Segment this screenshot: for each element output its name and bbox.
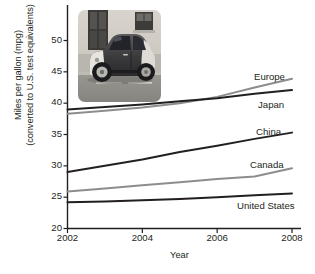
inset-photo: [78, 10, 161, 102]
series-label-japan: Japan: [258, 99, 284, 110]
series-line-canada: [68, 168, 293, 191]
series-label-united-states: United States: [237, 200, 295, 211]
series-label-china: China: [256, 126, 281, 137]
chart-figure: Miles per gallon (mpg) (converted to U.S…: [0, 0, 315, 274]
car-photo-image: [78, 10, 161, 102]
series-label-europe: Europe: [254, 71, 285, 82]
series-label-canada: Canada: [250, 159, 284, 170]
